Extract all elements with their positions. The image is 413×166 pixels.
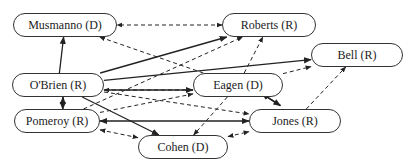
edge-eagen-to-bell [283,67,311,74]
node-bell: Bell (R) [311,43,403,67]
node-roberts: Roberts (R) [222,13,316,37]
edge-obrien-to-musmanno [59,37,63,73]
edge-obrien-to-roberts [100,37,227,73]
edge-pomeroy-to-eagen [100,94,193,112]
node-cohen: Cohen (D) [138,135,228,159]
node-musmanno: Musmanno (D) [13,13,117,37]
influence-diagram: Musmanno (D)Roberts (R)Bell (R)O'Brien (… [0,0,413,166]
node-eagen: Eagen (D) [193,73,283,97]
node-pomeroy: Pomeroy (R) [14,109,100,133]
edge-eagen-to-musmanno [100,37,204,73]
edge-eagen-to-cohen [194,97,228,135]
edge-eagen-to-roberts [244,37,263,73]
edge-cohen-to-jones [228,132,249,137]
edge-pomeroy-to-cohen [100,130,138,138]
node-obrien: O'Brien (R) [12,73,104,97]
node-jones: Jones (R) [249,109,341,133]
edge-jones-to-bell [306,67,345,109]
